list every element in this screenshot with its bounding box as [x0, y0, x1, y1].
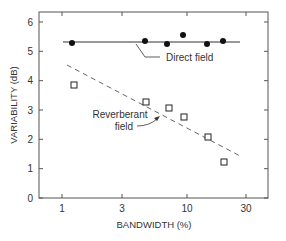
x-axis-title: BANDWIDTH (%)	[117, 219, 192, 230]
x-axis-ticks	[62, 12, 246, 198]
y-axis-title: VARIABILITY (dB)	[8, 66, 19, 143]
y-tick-4: 4	[27, 75, 33, 86]
y-tick-1: 1	[27, 163, 33, 174]
y-tick-labels: 0 1 2 3 4 5 6	[27, 17, 33, 204]
plot-frame	[39, 12, 268, 198]
y-axis-ticks	[39, 22, 268, 198]
y-tick-0: 0	[27, 193, 33, 204]
direct-field-points	[69, 32, 226, 47]
x-tick-10: 10	[181, 203, 193, 214]
y-tick-5: 5	[27, 46, 33, 57]
x-tick-30: 30	[240, 203, 252, 214]
x-tick-1: 1	[59, 203, 65, 214]
reverberant-field-label-line1: Reverberant	[92, 109, 147, 120]
direct-field-pointer	[136, 44, 160, 57]
y-tick-2: 2	[27, 134, 33, 145]
x-tick-3: 3	[119, 203, 125, 214]
reverberant-field-label-line2: field	[115, 121, 133, 132]
x-tick-labels: 1 3 10 30	[59, 203, 252, 214]
y-tick-6: 6	[27, 17, 33, 28]
chart: 0 1 2 3 4 5 6 1 3 10 30 BANDWIDTH (%) VA…	[0, 0, 286, 241]
direct-field-label: Direct field	[166, 52, 213, 63]
y-tick-3: 3	[27, 105, 33, 116]
